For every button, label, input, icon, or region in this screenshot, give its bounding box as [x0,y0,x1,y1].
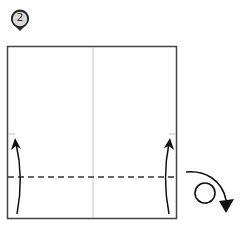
paper-square [8,47,177,219]
step-number: 2 [13,11,27,25]
turn-over-icon [186,172,234,213]
origami-diagram [0,0,240,229]
